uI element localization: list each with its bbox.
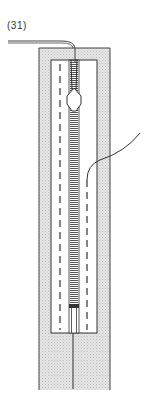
zipper-illustration: [0, 0, 149, 404]
zipper-bottom-stop: [69, 304, 79, 308]
sewing-diagram: (31): [0, 0, 149, 404]
